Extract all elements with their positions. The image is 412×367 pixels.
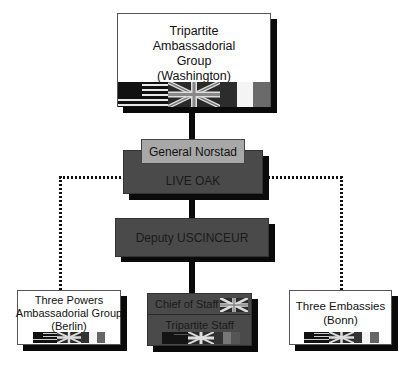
general-norstad-label: General Norstad: [142, 145, 244, 159]
dotted-connector-bonn-vertical: [340, 176, 343, 290]
node-general-norstad: General Norstad: [141, 139, 245, 164]
uk-flag-icon: [329, 332, 354, 343]
chief-of-staff-label: Chief of Staff: [155, 298, 218, 310]
tripartite-staff-label: Tripartite Staff: [148, 319, 251, 332]
berlin-flags: [33, 332, 105, 343]
us-flag-icon: [118, 82, 168, 107]
us-flag-icon: [162, 332, 188, 344]
uk-flag-icon: [220, 298, 248, 312]
node-washington: Tripartite Ambassadorial Group (Washingt…: [117, 13, 271, 107]
uk-flag-icon: [188, 332, 214, 344]
node-bonn: Three Embassies (Bonn): [289, 290, 392, 345]
bonn-label: Three Embassies (Bonn): [290, 300, 391, 328]
france-flag-icon: [81, 332, 105, 343]
bonn-flags: [304, 332, 379, 343]
node-chief-of-staff: Chief of Staff Tripartite Staff: [147, 293, 252, 346]
node-deputy-uscinceur: Deputy USCINCEUR: [115, 218, 269, 257]
france-flag-icon: [354, 332, 379, 343]
node-berlin: Three Powers Ambassadorial Group (Berlin…: [17, 290, 121, 345]
tripartite-staff-flags: [162, 332, 240, 344]
us-flag-icon: [33, 332, 57, 343]
washington-label: Tripartite Ambassadorial Group (Washingt…: [118, 24, 270, 84]
dotted-connector-berlin-horizontal: [59, 176, 123, 179]
uk-flag-icon: [57, 332, 81, 343]
berlin-label: Three Powers Ambassadorial Group (Berlin…: [18, 294, 120, 334]
france-flag-icon: [220, 82, 270, 107]
france-flag-icon: [214, 332, 240, 344]
dotted-connector-bonn-horizontal: [268, 176, 342, 179]
dotted-connector-berlin-vertical: [59, 176, 62, 290]
live-oak-label: LIVE OAK: [124, 174, 262, 188]
uk-flag-icon: [168, 82, 220, 107]
chief-of-staff-row: Chief of Staff: [148, 294, 251, 315]
connector-deputy-chief: [189, 257, 195, 293]
washington-flags: [118, 82, 270, 107]
connector-liveoak-deputy: [189, 198, 195, 218]
deputy-uscinceur-label: Deputy USCINCEUR: [116, 231, 268, 245]
us-flag-icon: [304, 332, 329, 343]
